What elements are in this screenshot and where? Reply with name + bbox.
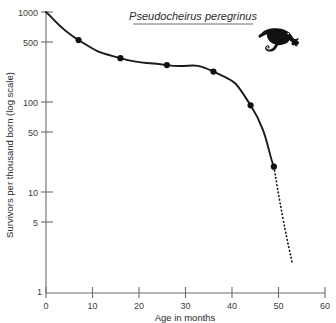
y-tick-label-100: 100	[23, 98, 38, 108]
data-point	[164, 62, 170, 68]
data-point-markers	[75, 37, 277, 170]
chart-canvas: Pseudocheirus peregrinus 1000 500 100 50	[0, 0, 336, 323]
data-point	[210, 68, 216, 74]
chart-title-group: Pseudocheirus peregrinus	[129, 10, 257, 24]
y-tick-label-500: 500	[23, 38, 38, 48]
x-tick-label-0: 0	[43, 301, 48, 311]
survivorship-curve-dotted	[274, 167, 293, 264]
data-point	[271, 164, 277, 170]
x-axis-ticks: 0 10 20 30 40 50 60	[43, 287, 330, 311]
survivorship-curve-figure: Pseudocheirus peregrinus 1000 500 100 50	[0, 0, 336, 323]
y-axis-title: Survivors per thousand born (log scale)	[4, 72, 15, 238]
y-tick-label-5: 5	[33, 218, 38, 228]
chart-title: Pseudocheirus peregrinus	[129, 10, 257, 22]
x-tick-label-20: 20	[134, 301, 144, 311]
x-axis-title: Age in months	[155, 312, 216, 323]
x-tick-label-10: 10	[87, 301, 97, 311]
data-point	[75, 37, 81, 43]
x-tick-label-30: 30	[180, 301, 190, 311]
data-point	[248, 102, 254, 108]
ringtail-possum-silhouette	[258, 28, 299, 51]
x-tick-label-50: 50	[273, 301, 283, 311]
y-tick-label-1: 1	[37, 287, 42, 297]
survivorship-curve-solid	[46, 12, 274, 167]
y-tick-label-10: 10	[28, 188, 38, 198]
x-tick-label-40: 40	[227, 301, 237, 311]
data-point	[117, 55, 123, 61]
x-tick-label-60: 60	[320, 301, 330, 311]
y-tick-label-50: 50	[28, 128, 38, 138]
y-tick-label-1000: 1000	[18, 8, 38, 18]
axes-group	[46, 11, 325, 293]
y-axis-ticks: 1000 500 100 50 10 5 1	[18, 8, 53, 298]
